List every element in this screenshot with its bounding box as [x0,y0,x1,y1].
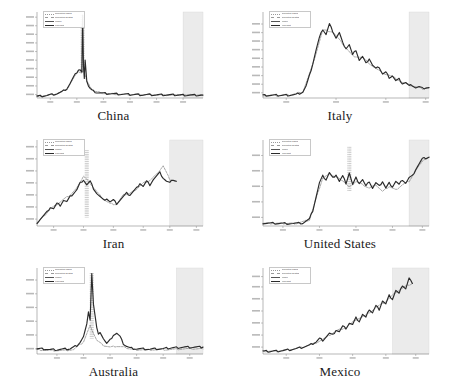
legend-swatch-icon [45,153,54,154]
series-line [263,278,412,352]
legend-label: Forecast [282,152,291,155]
small-multiples-grid: Reported casesReported deathsModelForeca… [0,0,453,384]
legend-swatch-icon [271,273,280,274]
legend-item: Forecast [271,280,310,283]
legend-label: Forecast [282,24,291,27]
legend-swatch-icon [45,281,54,282]
legend: Reported casesReported deathsModelForeca… [269,267,311,284]
legend-swatch-icon [271,142,280,143]
legend-swatch-icon [271,149,280,150]
legend-label: Forecast [55,280,64,283]
plot-area: Reported casesReported deathsModelForeca… [247,264,433,364]
legend-item: Forecast [45,280,84,283]
series-line [263,24,429,97]
legend: Reported casesReported deathsModelForeca… [43,11,85,28]
series-line [263,283,412,351]
legend: Reported casesReported deathsModelForeca… [269,11,311,28]
series-line [263,30,429,96]
panel-united-states: Reported casesReported deathsModelForeca… [227,128,453,256]
legend-swatch-icon [45,142,54,143]
plot-area: Reported casesReported deathsModelForeca… [247,136,433,236]
legend-swatch-icon [271,270,280,271]
plot-area: Reported casesReported deathsModelForeca… [247,8,433,108]
legend-item: Forecast [45,152,84,155]
legend-label: Forecast [55,152,64,155]
legend-swatch-icon [45,25,54,26]
series-line [37,172,176,224]
panel-mexico: Reported casesReported deathsModelForeca… [227,256,453,384]
legend-swatch-icon [45,14,54,15]
legend-swatch-icon [271,277,280,278]
panel-caption: China [97,109,129,123]
legend-item: Forecast [271,24,310,27]
legend-swatch-icon [45,149,54,150]
panel-caption: United States [304,237,376,251]
legend: Reported casesReported deathsModelForeca… [43,267,85,284]
legend-item: Forecast [271,152,310,155]
panel-iran: Reported casesReported deathsModelForeca… [0,128,227,256]
legend-swatch-icon [271,153,280,154]
plot-area: Reported casesReported deathsModelForeca… [21,8,207,108]
panel-caption: Iran [103,237,125,251]
legend-swatch-icon [45,145,54,146]
legend-swatch-icon [271,14,280,15]
legend-label: Forecast [55,24,64,27]
series-line [37,69,203,97]
panel-italy: Reported casesReported deathsModelForeca… [227,0,453,128]
legend-swatch-icon [271,25,280,26]
panel-china: Reported casesReported deathsModelForeca… [0,0,227,128]
series-line [263,157,429,224]
legend-swatch-icon [45,21,54,22]
legend-swatch-icon [45,17,54,18]
panel-caption: Australia [89,365,138,379]
panel-caption: Italy [328,109,353,123]
legend: Reported casesReported deathsModelForeca… [269,139,311,156]
legend: Reported casesReported deathsModelForeca… [43,139,85,156]
legend-swatch-icon [271,281,280,282]
legend-swatch-icon [271,17,280,18]
series-line [263,157,429,224]
series-line [37,166,176,223]
legend-swatch-icon [45,270,54,271]
plot-area: Reported casesReported deathsModelForeca… [21,136,207,236]
panel-caption: Mexico [320,365,361,379]
legend-swatch-icon [45,277,54,278]
legend-label: Forecast [282,280,291,283]
legend-swatch-icon [271,21,280,22]
plot-area: Reported casesReported deathsModelForeca… [21,264,207,364]
legend-swatch-icon [271,145,280,146]
panel-australia: Reported casesReported deathsModelForeca… [0,256,227,384]
legend-item: Forecast [45,24,84,27]
legend-swatch-icon [45,273,54,274]
